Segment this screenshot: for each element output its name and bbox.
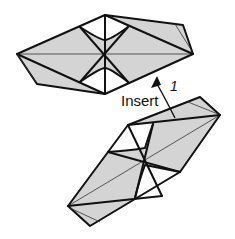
arrowhead-icon	[151, 76, 161, 88]
top-folded-unit	[17, 15, 193, 94]
step-number: 1	[170, 79, 178, 93]
insert-label: Insert	[121, 93, 159, 108]
origami-diagram	[0, 0, 235, 239]
bottom-folded-unit	[68, 97, 220, 226]
